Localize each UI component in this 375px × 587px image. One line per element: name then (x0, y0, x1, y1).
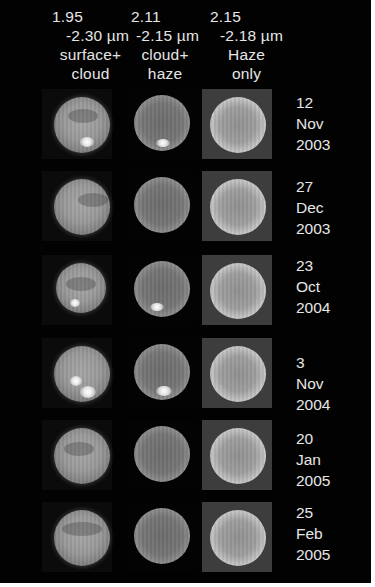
observation-row: 3Nov2004 (0, 338, 371, 420)
haze-only-image (202, 502, 272, 572)
figure-panel: 1.95 -2.30 µm surface+ cloud 2.11 -2.15 … (0, 0, 371, 583)
column-label-line2: haze (131, 64, 199, 83)
surface-cloud-image (42, 502, 112, 572)
column-label-line1: surface+ (52, 45, 129, 64)
wavelength-end: -2.18 µm (210, 26, 283, 45)
haze-only-image (202, 255, 272, 325)
haze-only-image (202, 171, 272, 241)
surface-cloud-image (42, 171, 112, 241)
haze-only-image (202, 338, 272, 408)
observation-row: 27Dec2003 (0, 171, 371, 253)
observation-row: 23Oct2004 (0, 255, 371, 337)
surface-cloud-image (42, 89, 112, 159)
wavelength-start: 1.95 (52, 7, 129, 26)
wavelength-end: -2.15 µm (131, 26, 199, 45)
wavelength-start: 2.11 (131, 7, 199, 26)
observation-row: 20Jan2005 (0, 420, 371, 502)
column-header-surface-cloud: 1.95 -2.30 µm surface+ cloud (52, 7, 129, 83)
cloud-haze-image (128, 255, 198, 325)
observation-date: 20Jan2005 (296, 428, 330, 491)
wavelength-end: -2.30 µm (52, 26, 129, 45)
column-label-line1: Haze (210, 45, 283, 64)
cloud-haze-image (128, 89, 198, 159)
observation-date: 27Dec2003 (296, 176, 330, 239)
observation-date: 3Nov2004 (296, 352, 330, 415)
observation-date: 12Nov2003 (296, 92, 330, 155)
column-label-line2: cloud (52, 64, 129, 83)
observation-date: 25Feb2005 (296, 502, 330, 565)
cloud-haze-image (128, 171, 198, 241)
cloud-haze-image (128, 338, 198, 408)
cloud-haze-image (128, 502, 198, 572)
column-header-haze-only: 2.15 -2.18 µm Haze only (210, 7, 283, 83)
column-label-line2: only (210, 64, 283, 83)
haze-only-image (202, 89, 272, 159)
cloud-haze-image (128, 420, 198, 490)
haze-only-image (202, 420, 272, 490)
observation-date: 23Oct2004 (296, 255, 330, 318)
observation-row: 25Feb2005 (0, 502, 371, 584)
column-label-line1: cloud+ (131, 45, 199, 64)
surface-cloud-image (42, 255, 112, 325)
column-header-cloud-haze: 2.11 -2.15 µm cloud+ haze (131, 7, 199, 83)
surface-cloud-image (42, 420, 112, 490)
wavelength-start: 2.15 (210, 7, 283, 26)
surface-cloud-image (42, 338, 112, 408)
observation-row: 12Nov2003 (0, 89, 371, 171)
